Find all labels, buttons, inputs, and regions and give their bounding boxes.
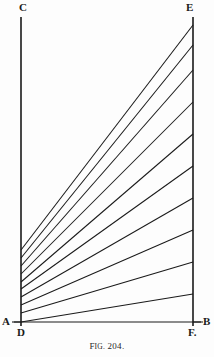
fan-line-3: [21, 230, 193, 305]
geometry-diagram: [0, 0, 214, 357]
vertex-label-b: B: [203, 316, 210, 327]
vertex-label-a: A: [2, 316, 10, 327]
vertex-label-e: E: [186, 2, 193, 13]
vertex-label-f: F.: [188, 327, 196, 338]
figure-container: C E A B D F. FIG. 204.: [0, 0, 214, 357]
caption-number: 204.: [108, 341, 125, 351]
fan-line-10: [21, 25, 193, 250]
caption-prefix-rest: IG.: [95, 342, 106, 351]
vertex-label-c: C: [19, 2, 27, 13]
fan-line-1: [21, 294, 193, 322]
fan-line-7: [21, 102, 193, 274]
fan-line-6: [21, 134, 193, 282]
fan-line-2: [21, 262, 193, 313]
fan-line-8: [21, 70, 193, 266]
figure-caption: FIG. 204.: [0, 341, 214, 351]
fan-line-9: [21, 45, 193, 258]
fan-line-5: [21, 166, 193, 289]
vertex-label-d: D: [17, 327, 25, 338]
